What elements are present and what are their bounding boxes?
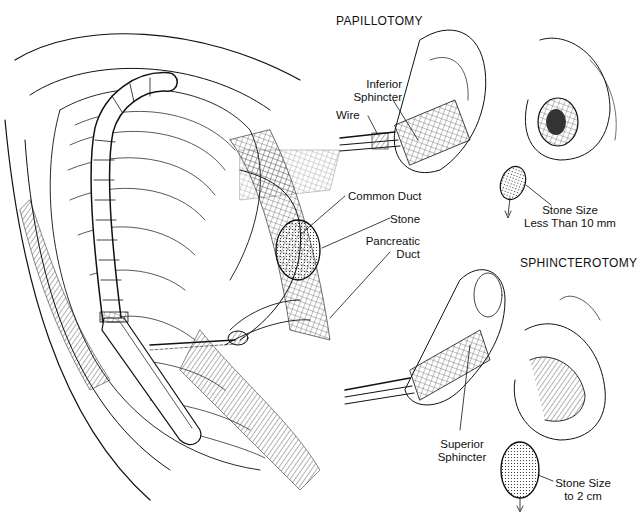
opened-papilla-drawing xyxy=(525,38,616,160)
wire-label: Wire xyxy=(336,109,360,122)
inferior-sphincter-label: Inferior Sphincter xyxy=(336,78,402,104)
papillotomy-title: PAPILLOTOMY xyxy=(336,14,423,28)
sphincterotomy-drawing xyxy=(345,270,505,430)
sphincterotomy-stone-size-label: Stone Size to 2 cm xyxy=(548,477,618,503)
large-stone-drawing xyxy=(501,442,553,512)
opened-sphincter-drawing xyxy=(514,296,605,440)
superior-sphincter-label: Superior Sphincter xyxy=(432,438,492,464)
papillotomy-stone-size-label: Stone Size Less Than 10 mm xyxy=(520,204,620,230)
stone-label: Stone xyxy=(390,213,420,226)
sphincterotomy-title: SPHINCTEROTOMY xyxy=(520,256,637,270)
common-duct-label: Common Duct xyxy=(348,190,422,203)
pancreatic-duct-label: Pancreatic Duct xyxy=(360,235,420,261)
